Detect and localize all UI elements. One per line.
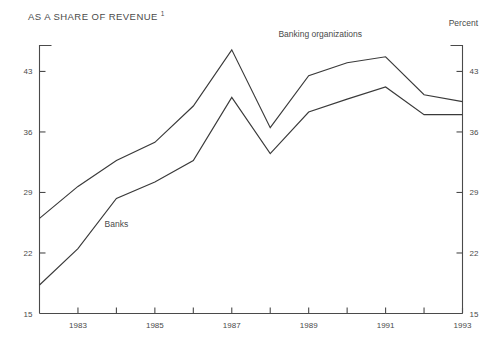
y-tick-label-left-22: 22 [24,249,33,258]
y-axis-left [40,46,52,314]
x-tick-label-1993: 1993 [454,321,472,330]
x-tick-label-1991: 1991 [377,321,395,330]
y-tick-label-left-43: 43 [24,67,33,76]
series-label-banking-organizations: Banking organizations [278,29,362,39]
series-line-banking-organizations [40,50,463,219]
y-tick-label-left-15: 15 [24,310,33,319]
revenue-share-chart: AS A SHARE OF REVENUE1 Percent 151522222… [0,0,501,339]
x-tick-label-1983: 1983 [69,321,87,330]
y-tick-label-right-29: 29 [470,188,479,197]
plot-area: 1515222229293636434319831985198719891991… [0,0,501,339]
series-line-banks [40,87,463,285]
y-tick-label-right-43: 43 [470,67,479,76]
y-tick-label-right-15: 15 [470,310,479,319]
y-tick-label-right-22: 22 [470,249,479,258]
y-axis-right [451,46,463,314]
series-label-banks: Banks [105,219,129,229]
x-tick-label-1987: 1987 [223,321,241,330]
x-tick-label-1989: 1989 [300,321,318,330]
y-tick-label-right-36: 36 [470,128,479,137]
y-tick-label-left-36: 36 [24,128,33,137]
y-tick-label-left-29: 29 [24,188,33,197]
x-tick-label-1985: 1985 [146,321,164,330]
